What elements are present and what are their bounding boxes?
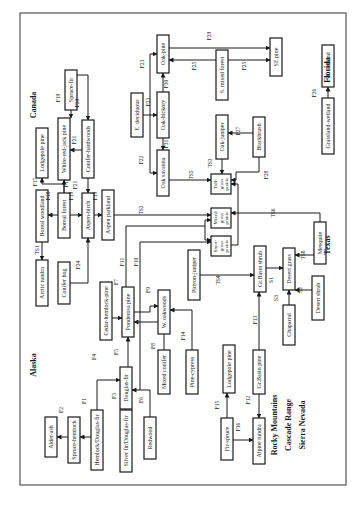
region-label-cascade: Cascade Range bbox=[284, 398, 293, 451]
node-tall-grass-prairie: Tall-grassprairie bbox=[211, 174, 231, 194]
node-oak-pine: Oak-pine bbox=[157, 35, 169, 73]
node-desert-shrub: Desert shrub bbox=[312, 276, 324, 320]
node-label: prairie bbox=[224, 177, 229, 191]
transition-label: F15 bbox=[214, 400, 220, 409]
node-aspen-parkland: Aspen parkland bbox=[102, 190, 114, 240]
node-mixed-grass-prairie: Mixedgrassprairie bbox=[211, 208, 231, 228]
node-grassland-wetland: Grassland-wetland bbox=[322, 98, 334, 154]
transition-label: F13 bbox=[252, 315, 258, 324]
transition-label: TS1 bbox=[34, 245, 40, 254]
transition-label: F21 bbox=[71, 135, 77, 144]
transition-label: S2 bbox=[297, 287, 303, 293]
node-label: grass bbox=[219, 213, 224, 223]
node-pine-cypress: Pine-cypress bbox=[186, 350, 198, 394]
region-label-alaska: Alaska bbox=[29, 353, 38, 377]
transition-label: F19 bbox=[55, 93, 61, 102]
node-label: Mixed bbox=[213, 211, 218, 225]
node-label: Desert grass bbox=[286, 254, 292, 284]
node-label: Mixed conifer bbox=[161, 355, 167, 389]
transition-label: F9 bbox=[145, 287, 151, 293]
node-label: Lodgepole pine bbox=[226, 350, 232, 388]
node-hemlock-douglas-fir: Hemlock/Douglas-fir bbox=[91, 410, 103, 470]
node-label: Tall- bbox=[213, 179, 218, 189]
node-label: Desert shrub bbox=[315, 283, 321, 314]
node-label: grass bbox=[219, 241, 224, 251]
node-s-mixed-forest: S. mixed forest bbox=[216, 50, 228, 100]
node-label: E. deciduous bbox=[134, 99, 140, 131]
node-label: Gr.Basin pine bbox=[256, 355, 262, 388]
node-label: W. oakwoods bbox=[161, 295, 167, 328]
transition-label: F14 bbox=[180, 331, 186, 340]
node-oak-juniper: Oak-juniper bbox=[216, 115, 228, 159]
node-label: S. mixed forest bbox=[219, 56, 225, 93]
node-redwood: Redwood bbox=[144, 417, 156, 459]
node-lodgepole-pine-rm: Lodgepole pine bbox=[223, 345, 235, 393]
node-e-deciduous: E. deciduous bbox=[131, 93, 143, 137]
node-label: Aspen-birch bbox=[85, 201, 91, 231]
node-label: Douglas-fir bbox=[123, 374, 129, 402]
transition-label: F28 bbox=[263, 170, 269, 179]
node-label: Short- bbox=[213, 239, 218, 252]
node-label: Oak-juniper bbox=[219, 123, 225, 152]
node-blackbrush: Blackbrush bbox=[253, 117, 265, 157]
node-alder-ash: Alder-ash bbox=[45, 417, 57, 457]
node-label: White-red-jack pine bbox=[61, 125, 67, 173]
node-label: Boreal woodland bbox=[39, 195, 45, 236]
transition-label: F4 bbox=[91, 354, 97, 360]
transition-label: TS6 bbox=[270, 208, 276, 217]
node-gr-basin-pine: Gr.Basin pine bbox=[253, 350, 265, 394]
node-spruce-hemlock: Spruce-hemlock bbox=[68, 417, 80, 463]
transition-label: F17 bbox=[32, 177, 38, 186]
transition-label: TS8 bbox=[300, 250, 306, 259]
node-arctic-tundra: Arctic tundra bbox=[36, 260, 48, 306]
region-label-sierra: Sierra Nevada bbox=[298, 400, 307, 449]
transition-label: F17 bbox=[63, 178, 69, 187]
node-douglas-fir: Douglas-fir bbox=[120, 367, 132, 409]
region-label-texas: Texas bbox=[323, 235, 332, 254]
transition-label: S1 bbox=[268, 277, 274, 283]
node-short-grass-prairie: Short-grassprairie bbox=[211, 236, 231, 256]
transition-label: TS2 bbox=[138, 205, 144, 214]
node-oak-hickory: Oak-hickory bbox=[157, 92, 169, 138]
node-label: Grassland-wetland bbox=[325, 104, 331, 149]
node-white-red-jack-pine: White-red-jack pine bbox=[58, 118, 70, 180]
node-label: prairie bbox=[224, 211, 229, 225]
transition-label: TS4 bbox=[215, 275, 221, 284]
node-label: Conifer bog bbox=[61, 269, 67, 298]
transition-label: F25 bbox=[241, 61, 247, 70]
node-conifer-hardwoods: Conifer-hardwoods bbox=[82, 120, 94, 178]
transition-label: F19 bbox=[92, 191, 98, 200]
node-label: Fir-spruce bbox=[224, 426, 230, 451]
region-label-rocky: Rocky Mountains bbox=[270, 395, 279, 456]
transition-label: F27 bbox=[235, 126, 241, 135]
node-alpine-tundra: Alpine tundra bbox=[253, 418, 265, 464]
transition-label: F21 bbox=[72, 180, 78, 189]
node-label: Spruce-hemlock bbox=[71, 420, 77, 459]
node-label: Pinyon-juniper bbox=[191, 257, 197, 293]
transition-label: F18 bbox=[45, 191, 51, 200]
node-ponderosa-pine: Ponderosa pine bbox=[122, 287, 134, 337]
node-silver-fir-douglas-fir: Silver fir/Douglas-fir bbox=[120, 410, 132, 472]
transition-label: F8 bbox=[150, 343, 156, 349]
transition-label: F23 bbox=[145, 97, 151, 106]
transition-label: F25 bbox=[191, 61, 197, 70]
transition-label: F10 bbox=[133, 257, 139, 266]
transition-label: F29 bbox=[206, 31, 212, 40]
node-label: Boreal forest bbox=[61, 200, 67, 231]
transition-label: F12 bbox=[245, 395, 251, 404]
node-oak-savanna: Oak savanna bbox=[157, 150, 169, 196]
transition-label: F16 bbox=[235, 422, 241, 431]
node-label: Conifer-hardwoods bbox=[85, 125, 91, 172]
node-label: Chaparral bbox=[286, 313, 292, 337]
transition-label: F20 bbox=[74, 98, 80, 107]
transition-label: F31 bbox=[163, 139, 169, 148]
node-label: Cedar-hemlock-pine bbox=[103, 286, 109, 336]
node-label: grass bbox=[219, 179, 224, 189]
node-label: Aspen parkland bbox=[105, 196, 111, 234]
node-label: prairie bbox=[224, 239, 229, 253]
node-label: Blackbrush bbox=[256, 123, 262, 150]
transition-label: F6 bbox=[138, 397, 144, 403]
node-conifer-bog: Conifer bog bbox=[58, 262, 70, 304]
node-label: Oak-hickory bbox=[160, 100, 166, 130]
transition-label: F22 bbox=[138, 155, 144, 164]
